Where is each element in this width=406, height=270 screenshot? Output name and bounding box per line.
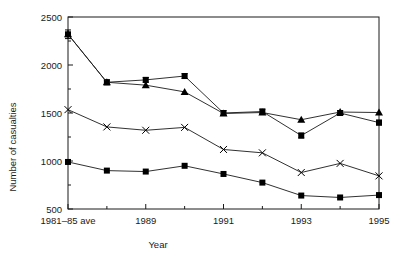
data-point-marker (182, 163, 188, 169)
data-point-marker (104, 168, 110, 174)
data-point-marker (143, 169, 149, 175)
data-point-marker (259, 180, 265, 186)
data-point-marker (221, 171, 227, 177)
x-tick-label: 1981–85 ave (41, 215, 96, 226)
y-axis-title: Number of casualties (7, 102, 18, 191)
y-tick-label: 1500 (41, 108, 62, 119)
x-tick-label: 1989 (135, 215, 156, 226)
y-tick-label: 500 (46, 204, 62, 215)
data-point-marker (298, 133, 304, 139)
x-axis-title: Year (148, 239, 167, 250)
x-tick-label: 1993 (291, 215, 312, 226)
chart-background (0, 0, 406, 270)
data-point-marker (376, 120, 382, 126)
x-tick-label: 1991 (213, 215, 234, 226)
y-tick-label: 2000 (41, 60, 62, 71)
data-point-marker (376, 192, 382, 198)
y-tick-label: 2500 (41, 12, 62, 23)
data-point-marker (182, 73, 188, 79)
data-point-marker (298, 193, 304, 199)
data-point-marker (337, 194, 343, 200)
data-point-marker (65, 159, 71, 165)
casualties-line-chart: 5001000150020002500 1981–85 ave198919911… (0, 0, 406, 270)
x-tick-label: 1995 (368, 215, 389, 226)
y-tick-label: 1000 (41, 156, 62, 167)
